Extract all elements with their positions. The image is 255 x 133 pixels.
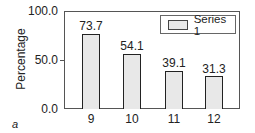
bar-value-label: 54.1	[114, 40, 150, 52]
x-tick-label: 11	[159, 113, 189, 125]
panel-label: a	[12, 118, 18, 130]
legend-swatch	[168, 20, 188, 30]
y-tick-label: 50.0	[20, 54, 58, 66]
bar-value-label: 31.3	[196, 63, 232, 75]
legend-label: Series 1	[194, 13, 235, 37]
x-tick-label: 12	[199, 113, 229, 125]
bar-value-label: 39.1	[156, 57, 192, 69]
bar-12	[205, 76, 223, 109]
y-tick-label: 100.0	[20, 5, 58, 17]
x-tick-label: 10	[117, 113, 147, 125]
bar-11	[165, 71, 183, 109]
x-tick-label: 9	[76, 113, 106, 125]
bar-9	[82, 34, 100, 109]
legend: Series 1	[160, 15, 236, 34]
y-tick-label: 0.0	[20, 103, 58, 115]
bar-10	[123, 54, 141, 109]
bar-value-label: 73.7	[73, 20, 109, 32]
